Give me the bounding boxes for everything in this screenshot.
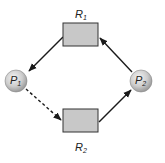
resource-r2-label: R2 <box>75 141 87 154</box>
resource-r1-box <box>63 23 98 46</box>
edge-p2-to-r1 <box>100 38 132 72</box>
edge-r2-to-p2 <box>99 90 131 122</box>
resource-r1: R1 <box>63 8 98 46</box>
edge-r1-to-p1 <box>29 37 63 71</box>
resource-r1-label: R1 <box>75 8 87 21</box>
process-p1: P1 <box>5 70 27 92</box>
resource-r2: R2 <box>63 109 98 154</box>
edge-p1-to-r2-claim <box>26 89 61 120</box>
resource-r2-box <box>63 109 98 132</box>
process-p2: P2 <box>130 70 152 92</box>
resource-allocation-graph: R1 R2 P1 P2 <box>0 0 165 163</box>
